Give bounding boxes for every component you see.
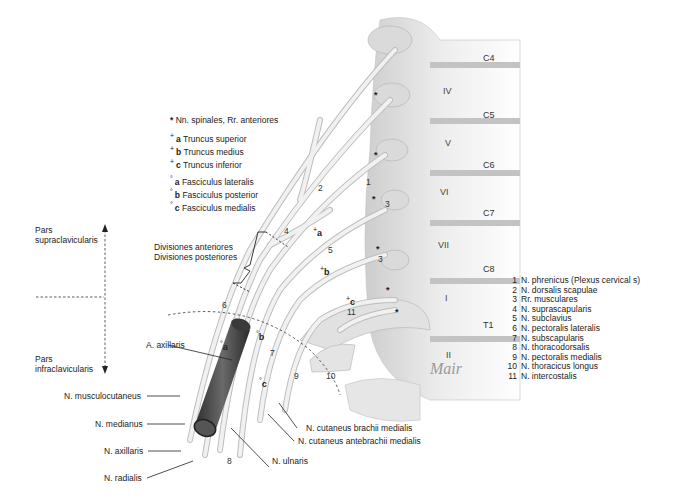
vertebra-i: I [445,293,448,303]
num-11: 11 [347,307,356,317]
vertebral-column [300,18,520,422]
label-pars-infraclavicularis: Pars infraclavicularis [35,354,93,374]
label-a-axillaris: A. axillaris [146,340,185,350]
star-c6: * [374,150,378,160]
marker-truncus-superior: +a [313,226,322,238]
marker-truncus-inferior: +c [346,295,355,307]
vertebra-iv: IV [443,86,452,96]
vertebra-v: V [445,138,451,148]
star-c7: * [372,194,376,204]
label-n-radialis: N. radialis [104,473,142,483]
num-3b: 3 [378,254,383,264]
key-trunci: +a Truncus superior +b Truncus medius +c… [170,131,278,169]
star-t1b: * [395,307,399,317]
key-truncus-superior: +a Truncus superior [170,131,278,144]
level-c5: C5 [483,110,495,120]
level-c8: C8 [483,264,495,274]
level-c4: C4 [483,53,495,63]
num-1: 1 [366,177,371,187]
label-divisions: Divisiones anteriores Divisiones posteri… [154,242,237,262]
num-10: 10 [326,371,335,381]
marker-truncus-medius: +b [320,265,330,277]
numbered-legend: 1N. phrenicus (Plexus cervical s) 2N. do… [505,276,640,382]
label-divisiones-posteriores: Divisiones posteriores [154,252,237,262]
key-fasciculi: °a Fasciculus lateralis °b Fasciculus po… [170,174,278,212]
label-n-axillaris: N. axillaris [104,446,143,456]
marker-fasciculus-medialis: °c [259,377,267,389]
num-3a: 3 [385,199,390,209]
vertebra-vi: VI [440,187,449,197]
label-pars-supraclavicularis: Pars supraclavicularis [35,225,98,245]
symbol-key: * Nn. spinales, Rr. anteriores +a Truncu… [170,115,278,213]
label-n-medianus: N. medianus [95,419,143,429]
star-t1a: * [386,285,390,295]
key-truncus-medius: +b Truncus medius [170,144,278,157]
vertebra-vii: VII [438,240,449,250]
num-6: 6 [222,300,227,310]
num-7: 7 [270,348,275,358]
key-spinal-nerves: * Nn. spinales, Rr. anteriores [170,115,278,125]
level-c7: C7 [483,208,495,218]
legend-item-11: 11N. intercostalis [505,372,640,382]
num-9: 9 [294,371,299,381]
star-c5: * [374,90,378,100]
label-divisiones-anteriores: Divisiones anteriores [154,242,237,252]
level-t1: T1 [483,320,494,330]
label-n-cutaneus-antebrachii-medialis: N. cutaneus antebrachii medialis [298,436,421,446]
num-8: 8 [227,456,232,466]
marker-fasciculus-posterior: °b [256,330,264,342]
level-c6: C6 [483,160,495,170]
label-n-ulnaris: N. ulnaris [272,456,308,466]
num-2: 2 [318,183,323,193]
label-n-cutaneus-brachii-medialis: N. cutaneus brachii medialis [306,423,412,433]
marker-fasciculus-lateralis: °a [220,340,228,352]
label-n-musculocutaneus: N. musculocutaneus [64,391,141,401]
artist-signature: Mair [430,360,462,378]
key-fasciculus-medialis: °c Fasciculus medialis [170,200,278,213]
key-fasciculus-lateralis: °a Fasciculus lateralis [170,174,278,187]
vertebra-ii: II [446,350,451,360]
num-4: 4 [284,226,289,236]
region-divider [36,224,108,374]
num-5: 5 [328,245,333,255]
key-fasciculus-posterior: °b Fasciculus posterior [170,187,278,200]
key-truncus-inferior: +c Truncus inferior [170,157,278,170]
star-c8: * [376,244,380,254]
